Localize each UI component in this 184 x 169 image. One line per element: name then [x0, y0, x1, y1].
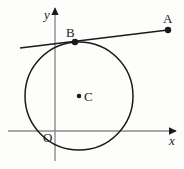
label-point-c: C [84, 90, 93, 103]
label-x-axis: x [169, 134, 175, 147]
label-point-b: B [66, 26, 75, 39]
label-point-a: A [163, 12, 172, 25]
point-dot-a [165, 27, 171, 33]
point-dot-c [77, 94, 82, 99]
geometry-figure: A B C O y x [0, 0, 184, 169]
figure-canvas [0, 0, 184, 169]
label-y-axis: y [44, 8, 50, 21]
label-origin: O [43, 131, 52, 144]
tangent-line-AB [20, 30, 168, 48]
